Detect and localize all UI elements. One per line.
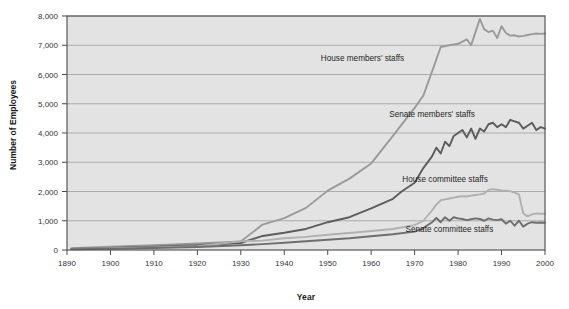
y-tick-label: 1,000 [38, 217, 59, 226]
y-tick-label: 3,000 [38, 158, 59, 167]
chart-container: 01,0002,0003,0004,0005,0006,0007,0008,00… [0, 0, 569, 309]
line-chart: 01,0002,0003,0004,0005,0006,0007,0008,00… [0, 0, 569, 309]
series-label: Senate committee staffs [406, 225, 494, 234]
x-tick-label: 1980 [449, 259, 467, 268]
x-tick-label: 1970 [406, 259, 424, 268]
x-tick-label: 1960 [362, 259, 380, 268]
y-tick-label: 2,000 [38, 188, 59, 197]
y-tick-label: 4,000 [38, 129, 59, 138]
x-tick-label: 1890 [58, 259, 76, 268]
series-label: Senate members' staffs [389, 110, 475, 119]
x-tick-label: 1910 [145, 259, 163, 268]
x-tick-label: 1930 [232, 259, 250, 268]
y-tick-label: 6,000 [38, 71, 59, 80]
x-tick-label: 1990 [493, 259, 511, 268]
x-tick-label: 1940 [275, 259, 293, 268]
series-label: House members' staffs [321, 54, 404, 63]
y-tick-labels: 01,0002,0003,0004,0005,0006,0007,0008,00… [38, 12, 59, 255]
y-tick-label: 0 [54, 246, 59, 255]
series-label: House committee staffs [402, 175, 487, 184]
y-tick-label: 5,000 [38, 100, 59, 109]
y-tick-label: 7,000 [38, 41, 59, 50]
x-tick-label: 1950 [319, 259, 337, 268]
x-tick-label: 1900 [102, 259, 120, 268]
x-tick-label: 1920 [188, 259, 206, 268]
y-tick-label: 8,000 [38, 12, 59, 21]
x-tick-label: 2000 [536, 259, 554, 268]
